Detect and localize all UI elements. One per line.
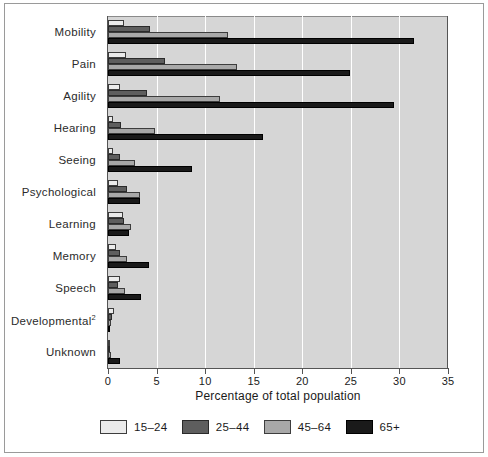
y-axis-label-hearing: Hearing (54, 122, 96, 134)
gridline-15 (254, 16, 255, 368)
y-axis-label-speech: Speech (55, 282, 96, 294)
x-tick-mark (351, 369, 352, 374)
y-axis-label-agility: Agility (63, 90, 96, 102)
y-axis-label-seeing: Seeing (58, 154, 96, 166)
bar (108, 358, 120, 364)
chart-figure: 05101520253035 MobilityPainAgilityHearin… (0, 0, 488, 457)
gridline-30 (399, 16, 400, 368)
x-tick-mark (254, 369, 255, 374)
bar (108, 230, 129, 236)
bar (108, 198, 140, 204)
x-axis-title: Percentage of total population (108, 389, 448, 403)
x-tick-label: 10 (185, 375, 225, 387)
plot-top-rule (108, 16, 447, 17)
x-tick-label: 0 (88, 375, 128, 387)
legend-entry: 65+ (346, 420, 400, 434)
legend-entry: 15–24 (100, 420, 167, 434)
x-tick-mark (302, 369, 303, 374)
x-tick-label: 35 (428, 375, 468, 387)
plot-area (108, 16, 448, 368)
bar (108, 294, 141, 300)
x-axis-spine (107, 368, 449, 369)
x-tick-mark (205, 369, 206, 374)
legend-label: 25–44 (216, 421, 249, 433)
x-tick-mark (157, 369, 158, 374)
x-tick-label: 20 (282, 375, 322, 387)
chart-legend: 15–2425–4445–6465+ (100, 413, 400, 441)
y-axis-label-learning: Learning (49, 218, 96, 230)
y-axis-label-developmental: Developmental2 (11, 313, 96, 327)
y-axis-label-pain: Pain (72, 58, 96, 70)
x-tick-mark (399, 369, 400, 374)
gridline-25 (351, 16, 352, 368)
y-axis-label-mobility: Mobility (55, 26, 96, 38)
bar (108, 102, 394, 108)
x-tick-label: 30 (379, 375, 419, 387)
legend-swatch-icon (182, 420, 209, 434)
bar (108, 326, 110, 332)
y-axis-spine (107, 16, 108, 369)
legend-entry: 25–44 (182, 420, 249, 434)
x-tick-label: 5 (137, 375, 177, 387)
x-tick-label: 25 (331, 375, 371, 387)
legend-entry: 45–64 (264, 420, 331, 434)
y-axis-label-unknown: Unknown (46, 346, 96, 358)
legend-swatch-icon (100, 420, 127, 434)
bar (108, 166, 192, 172)
legend-label: 15–24 (134, 421, 167, 433)
legend-label: 45–64 (298, 421, 331, 433)
legend-label: 65+ (380, 421, 400, 433)
bar (108, 70, 350, 76)
x-tick-label: 15 (234, 375, 274, 387)
legend-swatch-icon (264, 420, 291, 434)
x-tick-mark (108, 369, 109, 374)
y-axis-label-memory: Memory (53, 250, 96, 262)
legend-swatch-icon (346, 420, 373, 434)
x-tick-mark (448, 369, 449, 374)
y-axis-label-psychological: Psychological (22, 186, 96, 198)
gridline-20 (302, 16, 303, 368)
bar (108, 38, 414, 44)
bar (108, 262, 149, 268)
bar (108, 134, 263, 140)
